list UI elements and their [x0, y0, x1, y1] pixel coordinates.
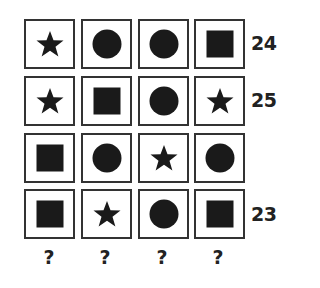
grid-cell	[194, 189, 245, 239]
circle-icon	[149, 30, 178, 59]
star-icon	[149, 143, 179, 173]
square-icon	[36, 145, 63, 172]
row-sum-1: 24	[251, 32, 276, 54]
grid-cell	[24, 19, 75, 69]
star-icon	[35, 86, 65, 116]
square-icon	[93, 88, 120, 115]
square-icon	[206, 31, 233, 58]
grid-cell	[81, 133, 132, 183]
circle-icon	[149, 87, 178, 116]
grid-cell	[138, 76, 189, 126]
grid-cell	[24, 189, 75, 239]
grid-cell	[194, 19, 245, 69]
star-icon	[205, 86, 235, 116]
grid-cell	[194, 76, 245, 126]
circle-icon	[92, 144, 121, 173]
row-sum-2: 25	[251, 89, 276, 111]
grid-cell	[194, 133, 245, 183]
grid-cell	[81, 19, 132, 69]
column-answer-3: ?	[152, 246, 172, 268]
grid-cell	[138, 19, 189, 69]
column-answer-2: ?	[95, 246, 115, 268]
grid-cell	[138, 133, 189, 183]
grid-cell	[81, 189, 132, 239]
star-icon	[35, 29, 65, 59]
row-sum-4: 23	[251, 203, 276, 225]
grid-cell	[24, 133, 75, 183]
grid-cell	[138, 189, 189, 239]
grid-cell	[24, 76, 75, 126]
square-icon	[206, 201, 233, 228]
circle-icon	[149, 200, 178, 229]
star-icon	[92, 199, 122, 229]
square-icon	[36, 201, 63, 228]
column-answer-4: ?	[208, 246, 228, 268]
circle-icon	[92, 30, 121, 59]
circle-icon	[205, 144, 234, 173]
column-answer-1: ?	[39, 246, 59, 268]
grid-cell	[81, 76, 132, 126]
